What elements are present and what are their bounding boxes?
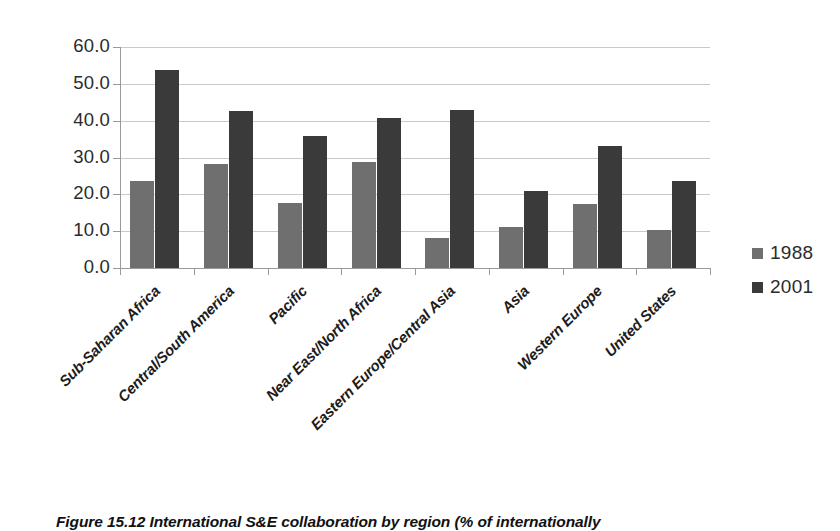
x-category-label: Asia bbox=[498, 282, 532, 316]
bar-1988-3 bbox=[352, 162, 376, 268]
y-tick-label: 50.0 bbox=[28, 72, 110, 94]
bar-1988-2 bbox=[278, 203, 302, 268]
figure-caption: Figure 15.12 International S&E collabora… bbox=[56, 513, 836, 531]
bar-2001-5 bbox=[524, 191, 548, 268]
bar-1988-5 bbox=[499, 227, 523, 268]
bar-1988-1 bbox=[204, 164, 228, 268]
bar-1988-7 bbox=[647, 230, 671, 268]
y-tick-label: 30.0 bbox=[28, 146, 110, 168]
bar-2001-7 bbox=[672, 181, 696, 268]
bar-1988-4 bbox=[425, 238, 449, 268]
bar-2001-3 bbox=[377, 118, 401, 268]
x-axis-category-labels: Sub-Saharan AfricaCentral/South AmericaP… bbox=[0, 268, 840, 448]
legend-item-1988[interactable]: 1988 bbox=[752, 236, 813, 270]
x-category-label: Pacific bbox=[265, 282, 310, 327]
x-category-label: Eastern Europe/Central Asia bbox=[307, 282, 458, 433]
y-tick-label: 20.0 bbox=[28, 182, 110, 204]
bar-2001-1 bbox=[229, 111, 253, 268]
chart-plot: 60.050.040.030.020.010.00.0 bbox=[0, 0, 840, 300]
y-tick-label: 40.0 bbox=[28, 109, 110, 131]
bar-1988-6 bbox=[573, 204, 597, 268]
bar-2001-0 bbox=[155, 70, 179, 268]
figure-container: 60.050.040.030.020.010.00.0 Sub-Saharan … bbox=[0, 0, 840, 531]
bar-2001-4 bbox=[450, 110, 474, 268]
legend-item-2001[interactable]: 2001 bbox=[752, 270, 813, 304]
bar-2001-2 bbox=[303, 136, 327, 268]
bar-2001-6 bbox=[598, 146, 622, 268]
chart-legend: 19882001 bbox=[752, 236, 813, 304]
legend-swatch-2001-icon bbox=[752, 282, 763, 293]
y-tick-label: 60.0 bbox=[28, 35, 110, 57]
legend-label: 1988 bbox=[770, 242, 813, 264]
x-category-label: United States bbox=[601, 282, 679, 360]
bar-1988-0 bbox=[130, 181, 154, 268]
legend-label: 2001 bbox=[770, 276, 813, 298]
legend-swatch-1988-icon bbox=[752, 248, 763, 259]
bar-series-area bbox=[120, 47, 710, 268]
y-tick-label: 10.0 bbox=[28, 219, 110, 241]
